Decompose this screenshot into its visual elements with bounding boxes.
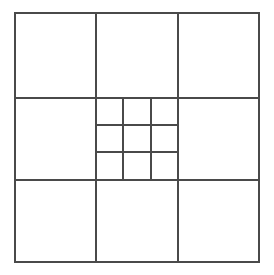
figure-canvas xyxy=(0,0,274,275)
nested-square-diagram xyxy=(0,0,274,275)
canvas-background xyxy=(0,0,274,275)
